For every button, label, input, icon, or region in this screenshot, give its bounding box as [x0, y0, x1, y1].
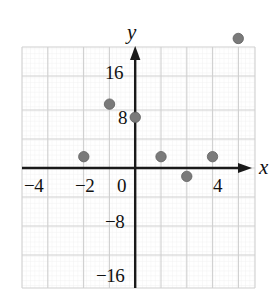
data-point [79, 151, 89, 161]
x-tick-label-4: 4 [213, 176, 222, 195]
data-point [182, 171, 192, 181]
y-axis-label: y [127, 22, 136, 43]
y-tick-label-neg16: −16 [96, 266, 124, 285]
x-axis-label: x [259, 157, 268, 178]
data-point [156, 151, 166, 161]
plot-canvas [0, 0, 280, 295]
data-point [207, 151, 217, 161]
scatter-plot-figure: −4 −2 0 4 16 8 −8 −16 y x [0, 0, 280, 295]
data-point [233, 33, 243, 43]
x-tick-label-neg2: −2 [75, 176, 94, 195]
data-point [130, 112, 140, 122]
data-point [104, 99, 114, 109]
x-tick-label-0: 0 [117, 176, 126, 195]
x-tick-label-neg4: −4 [24, 176, 43, 195]
y-tick-label-16: 16 [105, 63, 123, 82]
y-tick-label-neg8: −8 [105, 212, 124, 231]
y-tick-label-8: 8 [118, 108, 127, 127]
